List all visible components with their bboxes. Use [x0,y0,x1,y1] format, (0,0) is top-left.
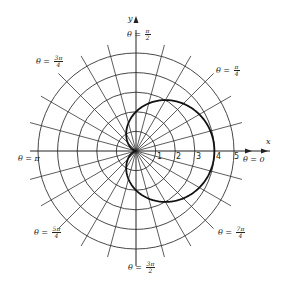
grid-spoke-255 [108,151,136,257]
angle-label-pi-over-2: θ = π2 [127,28,151,41]
grid-spoke-285 [136,151,164,257]
y-axis-arrow-icon [134,16,139,23]
grid-spoke-315 [136,151,214,229]
angle-label-pi-over-4: θ = π4 [216,64,240,77]
grid-spoke-120 [81,56,136,151]
grid-spoke-240 [81,151,136,246]
grid-spoke-135 [58,73,136,151]
angle-label-3pi-over-4: θ = 3π4 [36,55,63,68]
angle-label-5pi-over-4: θ = 5π4 [34,226,61,239]
angle-label-pi: θ = π [18,155,40,163]
grid-spoke-75 [136,45,164,151]
r-tick-5: 5 [234,153,239,161]
angle-label-7pi-over-4: θ = 7π4 [218,226,245,239]
r-tick-1: 1 [157,153,162,161]
angle-label-0: θ = 0 [243,156,265,164]
grid-spoke-225 [58,151,136,229]
r-tick-3: 3 [196,153,201,161]
grid-spoke-15 [136,123,242,151]
grid-spoke-105 [108,45,136,151]
angle-label-3pi-over-2: θ = 3π2 [128,261,155,274]
polar-plot [0,0,286,288]
r-tick-4: 4 [216,153,221,161]
grid-spoke-165 [30,123,136,151]
x-axis-label: x [266,137,271,146]
grid-spoke-210 [41,151,136,206]
grid-spoke-195 [30,151,136,179]
grid-spoke-345 [136,151,242,179]
r-tick-2: 2 [176,153,181,161]
grid-spoke-150 [41,96,136,151]
y-axis-label: y [128,14,133,23]
grid-spoke-45 [136,73,214,151]
